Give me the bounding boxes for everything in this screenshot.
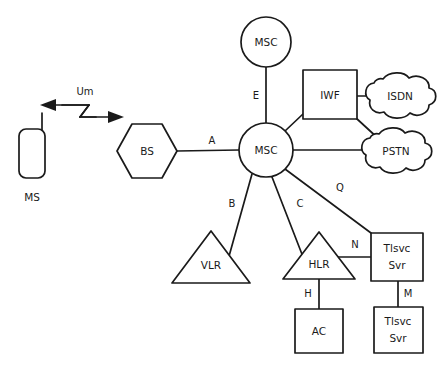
node-label-iwf: IWF — [320, 89, 340, 101]
node-isdn[interactable]: ISDN — [366, 73, 436, 118]
interface-label-n: N — [351, 239, 358, 250]
node-msc-hub[interactable]: MSC — [239, 123, 293, 177]
node-hlr[interactable]: HLR — [283, 232, 355, 279]
connection-a — [177, 150, 239, 151]
hlr-triangle-shape — [283, 232, 355, 279]
node-pstn[interactable]: PSTN — [362, 128, 432, 173]
node-label-tlsvc-svr-upper-line2: Svr — [388, 259, 406, 271]
interface-label-m: M — [404, 288, 413, 299]
node-label-pstn: PSTN — [382, 145, 409, 157]
node-tlsvc-svr-upper[interactable]: Tlsvc Svr — [371, 233, 423, 281]
node-label-msc-hub: MSC — [254, 144, 277, 156]
node-label-msc-top: MSC — [254, 36, 277, 48]
connection-msc-iwf — [285, 114, 303, 131]
interface-label-b: B — [229, 198, 236, 209]
tlsvc-svr-upper-rect-shape — [371, 233, 423, 281]
interface-label-um: Um — [76, 86, 93, 97]
node-label-vlr: VLR — [201, 259, 221, 271]
connection-b — [226, 174, 252, 267]
um-zigzag-diagonal — [80, 105, 89, 117]
node-label-isdn: ISDN — [387, 90, 413, 102]
node-label-tlsvc-svr-lower-line1: Tlsvc — [384, 315, 412, 327]
tlsvc-svr-lower-rect-shape — [374, 307, 423, 353]
vlr-triangle-shape — [172, 231, 250, 283]
interface-label-e: E — [253, 90, 259, 101]
interface-label-q: Q — [336, 182, 344, 193]
network-diagram: MS BS MSC MSC IWF ISDN PSTN VLR HLR — [0, 0, 443, 368]
node-label-bs: BS — [140, 145, 154, 157]
node-label-ac: AC — [312, 325, 326, 337]
um-zigzag-path — [62, 105, 96, 117]
interface-labels: Um A E B C Q N H M — [76, 86, 412, 299]
node-iwf[interactable]: IWF — [303, 70, 357, 119]
node-msc-top[interactable]: MSC — [241, 17, 291, 67]
node-vlr[interactable]: VLR — [172, 231, 250, 283]
node-tlsvc-svr-lower[interactable]: Tlsvc Svr — [374, 307, 423, 353]
ms-handset-icon — [19, 129, 45, 178]
node-label-hlr: HLR — [308, 258, 329, 270]
connection-c — [272, 177, 305, 262]
node-label-tlsvc-svr-lower-line2: Svr — [389, 332, 407, 344]
interface-label-a: A — [209, 135, 216, 146]
node-bs[interactable]: BS — [117, 124, 177, 178]
interface-label-c: C — [297, 198, 304, 209]
um-arrowhead-right — [108, 111, 124, 123]
node-label-tlsvc-svr-upper-line1: Tlsvc — [383, 242, 411, 254]
diagram-canvas: MS BS MSC MSC IWF ISDN PSTN VLR HLR — [0, 0, 443, 368]
node-label-ms: MS — [24, 191, 40, 203]
connection-um — [40, 99, 124, 123]
node-ms[interactable]: MS — [19, 113, 45, 203]
interface-label-h: H — [304, 288, 312, 299]
node-ac[interactable]: AC — [295, 309, 343, 353]
